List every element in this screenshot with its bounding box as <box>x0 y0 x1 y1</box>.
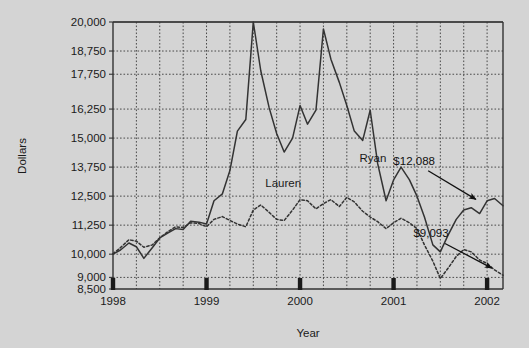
x-tick-label: 1998 <box>100 295 126 307</box>
annotation-label: $12,088 <box>393 155 435 167</box>
x-major-tick <box>391 278 395 290</box>
x-major-tick <box>111 278 115 290</box>
y-tick-label: 17,750 <box>71 68 106 80</box>
y-tick-label: 13,750 <box>71 161 106 173</box>
y-tick-label: 18,750 <box>71 45 106 57</box>
y-tick-label: 12,500 <box>71 190 106 202</box>
y-tick-label: 9,000 <box>77 271 106 283</box>
x-tick-label: 1999 <box>194 295 220 307</box>
y-tick-label: 20,000 <box>71 16 106 28</box>
x-tick-label: 2002 <box>474 295 500 307</box>
y-axis-title: Dollars <box>16 138 28 174</box>
x-tick-label: 2000 <box>287 295 313 307</box>
x-axis-title: Year <box>296 327 319 339</box>
x-major-tick <box>204 278 208 290</box>
chart-container: 8,5009,00010,00011,25012,50013,75015,000… <box>0 0 529 348</box>
y-tick-label: 10,000 <box>71 248 106 260</box>
y-tick-label: 8,500 <box>77 283 106 295</box>
y-tick-label: 11,250 <box>72 219 106 231</box>
annotation-label: $9,093 <box>413 227 448 239</box>
x-major-tick <box>485 278 489 290</box>
y-tick-label: 15,000 <box>71 132 106 144</box>
line-chart: 8,5009,00010,00011,25012,50013,75015,000… <box>0 0 529 348</box>
series-label-lauren: Lauren <box>265 177 301 189</box>
y-tick-label: 16,250 <box>71 103 106 115</box>
series-label-ryan: Ryan <box>360 152 387 164</box>
x-major-tick <box>298 278 302 290</box>
x-tick-label: 2001 <box>381 295 407 307</box>
